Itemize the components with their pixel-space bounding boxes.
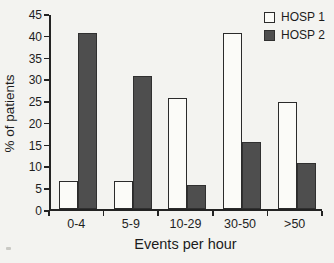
y-tick-mark — [44, 166, 49, 168]
y-tick-mark — [44, 58, 49, 60]
bar-hosp2-5-9 — [133, 76, 152, 209]
x-tick-mark — [103, 211, 105, 216]
bar-hosp2->50 — [297, 163, 316, 209]
bar-group-30-50 — [215, 15, 270, 209]
x-category-label: >50 — [267, 217, 322, 231]
bar-chart-figure: % of patients Events per hour HOSP 1HOSP… — [0, 0, 334, 263]
legend-label: HOSP 1 — [281, 10, 325, 24]
y-tick-label: 5 — [12, 183, 42, 195]
bar-group-0-4 — [51, 15, 106, 209]
y-tick-mark — [44, 188, 49, 190]
y-tick-label: 10 — [12, 161, 42, 173]
legend-row-hosp2: HOSP 2 — [264, 29, 325, 41]
y-tick-label: 20 — [12, 118, 42, 130]
y-tick-mark — [44, 36, 49, 38]
x-tick-mark — [267, 211, 269, 216]
y-tick-label: 35 — [12, 53, 42, 65]
y-tick-label: 30 — [12, 74, 42, 86]
scan-artifact — [6, 247, 11, 250]
x-category-label: 0-4 — [49, 217, 104, 231]
legend-row-hosp1: HOSP 1 — [264, 11, 325, 23]
y-tick-mark — [44, 123, 49, 125]
bar-hosp2-0-4 — [78, 33, 97, 209]
x-axis-title: Events per hour — [49, 236, 322, 252]
bar-hosp1-30-50 — [223, 33, 242, 209]
x-category-label: 5-9 — [104, 217, 159, 231]
bar-hosp1->50 — [278, 102, 297, 209]
y-tick-mark — [44, 14, 49, 16]
bar-hosp1-10-29 — [168, 98, 187, 209]
y-tick-mark — [44, 79, 49, 81]
y-tick-label: 15 — [12, 140, 42, 152]
x-tick-mark — [212, 211, 214, 216]
legend: HOSP 1HOSP 2 — [264, 11, 325, 47]
y-tick-mark — [44, 101, 49, 103]
bar-hosp2-30-50 — [242, 142, 261, 210]
x-category-label: 30-50 — [213, 217, 268, 231]
y-tick-label: 25 — [12, 96, 42, 108]
x-tick-mark — [48, 211, 50, 216]
bar-group-5-9 — [106, 15, 161, 209]
y-tick-mark — [44, 145, 49, 147]
y-tick-label: 40 — [12, 31, 42, 43]
x-category-label: 10-29 — [158, 217, 213, 231]
legend-swatch-icon — [264, 30, 275, 41]
bar-hosp1-5-9 — [114, 181, 133, 209]
bar-hosp1-0-4 — [59, 181, 78, 209]
x-tick-mark — [157, 211, 159, 216]
legend-label: HOSP 2 — [281, 28, 325, 42]
bar-group-10-29 — [160, 15, 215, 209]
y-tick-label: 45 — [12, 9, 42, 21]
y-tick-label: 0 — [12, 205, 42, 217]
bar-hosp2-10-29 — [187, 185, 206, 209]
legend-swatch-icon — [264, 12, 275, 23]
x-tick-mark — [321, 211, 323, 216]
